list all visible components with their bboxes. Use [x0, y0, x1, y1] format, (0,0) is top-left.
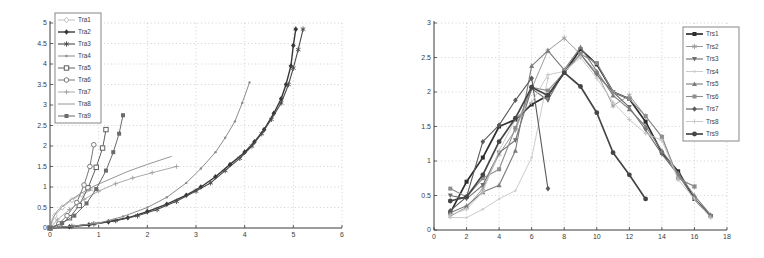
legend-label: Tra6 — [78, 76, 91, 83]
marker-Trs4 — [514, 189, 516, 191]
marker-Trs5 — [497, 183, 502, 188]
x-tick-label: 16 — [691, 233, 699, 240]
marker-Tra6 — [88, 164, 93, 169]
marker-Trs8 — [546, 72, 551, 77]
legend: Trs1Trs2Trs3Trs4Trs5Trs6Trs7Trs8Trs9 — [683, 27, 739, 141]
marker-Trs4 — [547, 77, 549, 79]
marker-Tra4 — [224, 137, 226, 139]
y-tick-label: 3 — [427, 19, 431, 26]
marker-Trs9 — [594, 110, 599, 115]
marker-Trs9 — [480, 172, 485, 177]
y-tick-label: 1.5 — [37, 163, 47, 170]
marker-Tra4 — [97, 222, 99, 224]
marker-Tra5 — [100, 146, 104, 150]
legend-label: Tra1 — [78, 16, 91, 23]
legend-marker — [693, 70, 695, 72]
y-tick-label: 2 — [43, 142, 47, 149]
marker-Trs9 — [562, 70, 567, 75]
marker-Tra4 — [234, 120, 236, 122]
series-markers-Tra9 — [48, 113, 125, 230]
marker-Tra7 — [174, 164, 179, 169]
marker-Trs9 — [546, 93, 551, 98]
legend: Tra1Tra2Tra3Tra4Tra5Tra6Tra7Tra8Tra9 — [55, 13, 101, 123]
y-tick-label: 2.5 — [421, 54, 431, 61]
legend-label: Tra8 — [78, 100, 91, 107]
x-tick-label: 6 — [530, 233, 534, 240]
x-tick-label: 1 — [97, 231, 101, 238]
legend-label: Trs8 — [706, 118, 719, 125]
x-tick-label: 8 — [562, 233, 566, 240]
legend-label: Tra7 — [78, 88, 91, 95]
legend-marker — [693, 95, 697, 99]
legend-label: Tra5 — [78, 64, 91, 71]
marker-Trs9 — [448, 199, 453, 204]
y-tick-label: 3 — [43, 101, 47, 108]
series-line-Trs5 — [450, 47, 710, 215]
x-tick-label: 2 — [465, 233, 469, 240]
series-markers-Trs8 — [448, 55, 713, 220]
marker-Tra5 — [104, 127, 108, 131]
legend-marker — [64, 78, 69, 83]
marker-Trs9 — [611, 150, 616, 155]
x-tick-label: 0 — [48, 231, 52, 238]
marker-Trs4 — [498, 198, 500, 200]
marker-Trs5 — [513, 148, 518, 153]
marker-Trs6 — [692, 185, 696, 189]
legend-marker — [65, 114, 69, 118]
x-tick-label: 2 — [145, 231, 149, 238]
marker-Trs6 — [595, 61, 599, 65]
marker-Trs6 — [627, 97, 631, 101]
marker-Trs9 — [627, 172, 632, 177]
legend-label: Trs2 — [706, 43, 719, 50]
y-tick-label: 1 — [427, 157, 431, 164]
x-tick-label: 10 — [593, 233, 601, 240]
legend-marker — [64, 66, 68, 70]
marker-Trs4 — [482, 208, 484, 210]
series-line-Trs1 — [450, 49, 710, 216]
legend-label: Tra3 — [78, 40, 91, 47]
marker-Trs9 — [464, 194, 469, 199]
legend-label: Trs9 — [706, 130, 719, 137]
marker-Trs3 — [545, 98, 550, 103]
marker-Tra6 — [92, 142, 97, 147]
y-tick-label: 4.5 — [37, 40, 47, 47]
x-tick-label: 4 — [497, 233, 501, 240]
x-tick-label: 14 — [658, 233, 666, 240]
marker-Tra2 — [293, 26, 298, 32]
marker-Trs1 — [481, 156, 485, 160]
series-line-Trs6 — [450, 54, 694, 197]
marker-Tra4 — [214, 151, 216, 153]
legend-label: Tra9 — [78, 112, 91, 119]
marker-Tra3 — [301, 26, 306, 31]
marker-Trs1 — [465, 180, 469, 184]
marker-Tra9 — [60, 221, 64, 225]
y-tick-label: 5 — [43, 19, 47, 26]
legend-marker — [65, 55, 67, 57]
y-tick-label: 3.5 — [37, 81, 47, 88]
marker-Trs9 — [513, 116, 518, 121]
series-line-Trs7 — [450, 78, 548, 211]
marker-Trs5 — [578, 45, 583, 50]
marker-Trs9 — [643, 197, 648, 202]
marker-Tra6 — [82, 183, 87, 188]
series — [448, 35, 713, 219]
marker-Tra9 — [72, 214, 76, 218]
right-chart: 02468101214161800.511.522.53Trs1Trs2Trs3… — [392, 3, 764, 258]
y-tick-label: 0 — [43, 224, 47, 231]
legend-label: Trs6 — [706, 93, 719, 100]
marker-Trs6 — [513, 126, 517, 130]
marker-Tra4 — [122, 215, 124, 217]
marker-Tra9 — [104, 169, 108, 173]
y-tick-label: 0 — [427, 226, 431, 233]
series-markers-Trs3 — [448, 52, 713, 219]
series-markers-Trs5 — [448, 45, 713, 217]
marker-Tra4 — [200, 167, 202, 169]
marker-Trs4 — [530, 156, 532, 158]
marker-Tra7 — [113, 181, 118, 186]
marker-Tra9 — [48, 226, 52, 230]
right-chart-canvas: 02468101214161800.511.522.53Trs1Trs2Trs3… — [392, 3, 764, 255]
marker-Tra9 — [121, 113, 125, 117]
marker-Tra6 — [65, 213, 70, 218]
marker-Tra7 — [130, 176, 135, 181]
marker-Tra4 — [166, 196, 168, 198]
